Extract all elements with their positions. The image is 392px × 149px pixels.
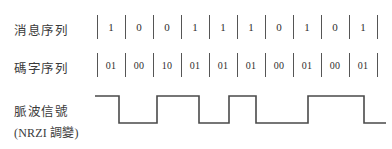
codeword-cell: 01 [237, 52, 265, 78]
nrzi-modulation-label: (NRZI 調變) [14, 123, 79, 141]
codeword-cell: 01 [181, 52, 209, 78]
message-bit-value: 1 [304, 21, 310, 33]
message-bit-cell: 0 [125, 14, 153, 40]
message-bit-cell: 1 [97, 14, 125, 40]
message-bit-cell: 1 [209, 14, 237, 40]
codeword-value: 00 [330, 60, 341, 71]
message-bit-value: 0 [276, 21, 282, 33]
message-bit-value: 1 [360, 21, 366, 33]
message-bit-value: 0 [136, 21, 142, 33]
message-bit-value: 0 [164, 21, 170, 33]
message-sequence-label: 消息序列 [14, 20, 68, 39]
message-bit-cell: 1 [293, 14, 321, 40]
message-bit-value: 0 [332, 21, 338, 33]
message-bit-cell: 1 [237, 14, 265, 40]
codeword-value: 01 [218, 60, 229, 71]
pulse-signal-label: 脈波信號 [14, 101, 68, 120]
codeword-value: 00 [274, 60, 285, 71]
codeword-value: 01 [106, 60, 117, 71]
codeword-sequence-label: 碼字序列 [14, 58, 68, 77]
codeword-cell: 01 [97, 52, 125, 78]
codeword-cell: 01 [209, 52, 237, 78]
message-bit-cell: 0 [265, 14, 293, 40]
message-bit-value: 1 [192, 21, 198, 33]
message-bit-value: 1 [220, 21, 226, 33]
codeword-value: 01 [190, 60, 201, 71]
codeword-sequence-row: 01001001010100010001 [97, 52, 378, 78]
codeword-value: 01 [302, 60, 313, 71]
message-bit-value: 1 [108, 21, 114, 33]
message-bit-cell: 1 [181, 14, 209, 40]
codeword-value: 01 [358, 60, 369, 71]
codeword-cell: 01 [293, 52, 321, 78]
message-bit-cell: 1 [349, 14, 377, 40]
message-bit-end-separator [377, 14, 378, 40]
message-bit-cell: 0 [321, 14, 349, 40]
codeword-end-separator [377, 52, 378, 78]
codeword-cell: 10 [153, 52, 181, 78]
message-bit-cell: 0 [153, 14, 181, 40]
nrzi-waveform-path [95, 96, 386, 123]
message-bit-value: 1 [248, 21, 254, 33]
codeword-value: 00 [134, 60, 145, 71]
message-sequence-row: 1001110101 [97, 14, 378, 40]
codeword-cell: 00 [265, 52, 293, 78]
codeword-cell: 00 [125, 52, 153, 78]
codeword-cell: 00 [321, 52, 349, 78]
codeword-value: 10 [162, 60, 173, 71]
codeword-cell: 01 [349, 52, 377, 78]
codeword-value: 01 [246, 60, 257, 71]
nrzi-encoding-diagram: 消息序列 碼字序列 脈波信號 (NRZI 調變) 1001110101 0100… [0, 0, 392, 149]
